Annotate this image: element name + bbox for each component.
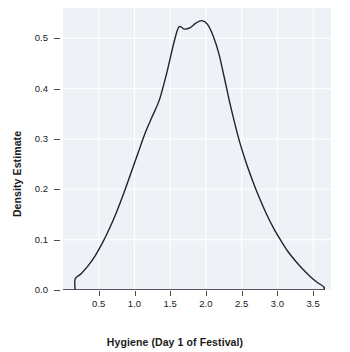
density-plot: 0.00.10.20.30.40.5 0.51.01.52.02.53.03.5… (0, 0, 350, 352)
x-tick-mark (242, 291, 243, 296)
gridlines (63, 8, 331, 290)
x-tick-label: 3.5 (298, 298, 328, 309)
x-tick-mark (99, 291, 100, 296)
y-tick-label: 0.3 (22, 133, 48, 144)
x-tick-mark (206, 291, 207, 296)
y-tick-mark (54, 290, 60, 291)
y-tick-label: 0.5 (22, 32, 48, 43)
density-curve-path (63, 21, 324, 290)
x-tick-mark (313, 291, 314, 296)
y-axis-title: Density Estimate (11, 104, 23, 244)
x-tick-label: 1.0 (119, 298, 149, 309)
x-tick-label: 3.0 (262, 298, 292, 309)
y-tick-label: 0.2 (22, 183, 48, 194)
x-tick-mark (277, 291, 278, 296)
y-tick-mark (54, 189, 60, 190)
y-tick-label: 0.4 (22, 83, 48, 94)
x-tick-label: 2.5 (227, 298, 257, 309)
x-axis-title: Hygiene (Day 1 of Festival) (0, 336, 350, 348)
x-tick-mark (170, 291, 171, 296)
density-curve-svg (63, 8, 331, 290)
x-tick-label: 2.0 (191, 298, 221, 309)
x-tick-mark (135, 291, 136, 296)
y-tick-mark (54, 89, 60, 90)
y-tick-mark (54, 139, 60, 140)
y-tick-mark (54, 240, 60, 241)
y-tick-label: 0.1 (22, 234, 48, 245)
plot-panel (63, 8, 331, 290)
y-tick-mark (54, 38, 60, 39)
x-tick-label: 0.5 (84, 298, 114, 309)
y-tick-label: 0.0 (22, 284, 48, 295)
x-tick-label: 1.5 (155, 298, 185, 309)
